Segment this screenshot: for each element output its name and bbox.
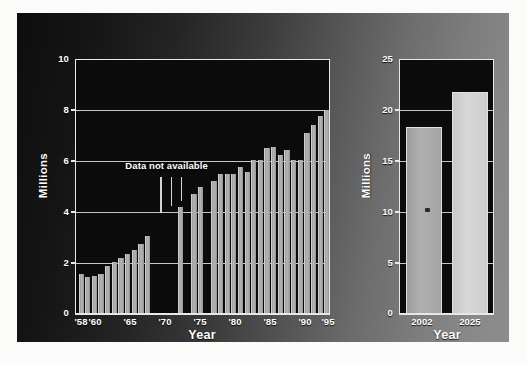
left-axis-baseline xyxy=(75,313,330,315)
bar xyxy=(191,194,196,314)
bar xyxy=(132,250,137,314)
right-bars-layer xyxy=(400,60,493,314)
right-ytickmark-10 xyxy=(395,211,400,212)
bar xyxy=(105,266,110,314)
left-bars-layer xyxy=(76,60,329,314)
right-xtick-label-2025: 2025 xyxy=(449,316,491,327)
left-ytick-label-0: 0 xyxy=(45,307,69,318)
bar xyxy=(258,160,263,314)
bar xyxy=(284,150,289,314)
left-ytick-label-8: 8 xyxy=(45,104,69,115)
figure-frame: Millions Data not available 10 8 6 4 xyxy=(0,0,527,365)
bar xyxy=(85,277,90,314)
left-xtick-label-75: '75 xyxy=(187,316,213,327)
left-ytickmark-8 xyxy=(71,109,76,110)
left-ytickmark-6 xyxy=(71,160,76,161)
bar xyxy=(271,147,276,314)
bar xyxy=(324,110,329,314)
left-annotation-leader-1 xyxy=(160,177,161,213)
left-ytick-label-2: 2 xyxy=(45,257,69,268)
left-xtick-label-80: '80 xyxy=(222,316,248,327)
left-annotation-leader-3 xyxy=(181,177,182,201)
right-ytickmark-20 xyxy=(395,109,400,110)
bar xyxy=(238,167,243,314)
left-xtick-label-70: '70 xyxy=(152,316,178,327)
figure-panel: Millions Data not available 10 8 6 4 xyxy=(17,13,509,342)
bar xyxy=(251,160,256,314)
bar xyxy=(452,92,488,314)
right-ytickmark-5 xyxy=(395,262,400,263)
left-ytick-label-6: 6 xyxy=(45,155,69,166)
right-ytick-label-0: 0 xyxy=(369,307,393,318)
bar xyxy=(79,274,84,314)
left-ytick-label-10: 10 xyxy=(45,53,69,64)
bar xyxy=(198,187,203,315)
left-xtick-label-85: '85 xyxy=(257,316,283,327)
right-ytick-label-10: 10 xyxy=(369,206,393,217)
bar xyxy=(92,276,97,314)
bar xyxy=(211,181,216,314)
right-ytick-label-25: 25 xyxy=(369,53,393,64)
left-ytick-label-4: 4 xyxy=(45,206,69,217)
left-annotation-leader-2 xyxy=(171,177,172,206)
right-ytick-label-5: 5 xyxy=(369,257,393,268)
bar xyxy=(118,258,123,314)
left-plot-area: Data not available xyxy=(75,59,330,314)
left-xtick-label-95: '95 xyxy=(315,316,341,327)
bar xyxy=(145,236,150,314)
bar xyxy=(278,155,283,314)
left-annotation-text: Data not available xyxy=(125,160,208,171)
right-axis-baseline xyxy=(399,313,494,315)
bar xyxy=(304,133,309,314)
bar xyxy=(125,254,130,314)
left-xtick-label-65: '65 xyxy=(117,316,143,327)
right-ytickmark-15 xyxy=(395,160,400,161)
bar xyxy=(311,125,316,314)
bar xyxy=(98,274,103,314)
bar xyxy=(231,174,236,314)
left-x-axis-title: Year xyxy=(137,328,267,342)
bar xyxy=(178,207,183,314)
bar xyxy=(406,127,442,314)
left-ytickmark-2 xyxy=(71,262,76,263)
bar xyxy=(112,262,117,314)
bar xyxy=(291,160,296,314)
left-xtick-label-60: '60 xyxy=(82,316,108,327)
right-ytick-label-20: 20 xyxy=(369,104,393,115)
right-x-axis-title: Year xyxy=(402,328,492,342)
bar xyxy=(245,172,250,314)
right-plot-area xyxy=(399,59,494,314)
bar xyxy=(138,244,143,314)
bar xyxy=(318,116,323,314)
bar xyxy=(298,160,303,314)
bar xyxy=(225,174,230,314)
image-artifact-speck xyxy=(425,208,430,212)
right-xtick-label-2002: 2002 xyxy=(401,316,443,327)
right-ytick-label-15: 15 xyxy=(369,155,393,166)
bar xyxy=(218,174,223,314)
bar xyxy=(264,148,269,314)
left-ytickmark-4 xyxy=(71,211,76,212)
